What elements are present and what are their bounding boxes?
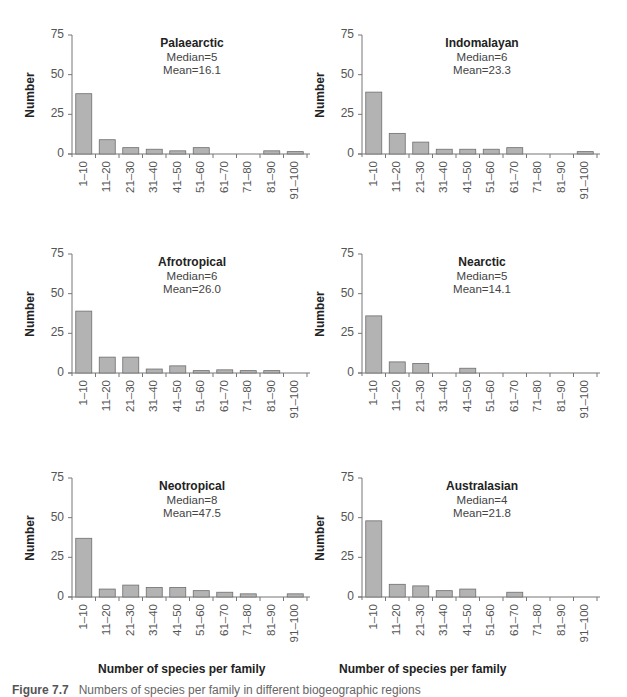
bar	[413, 586, 429, 597]
x-axis-label-right: Number of species per family	[339, 662, 506, 676]
x-tick-label: 91–100	[578, 161, 590, 201]
y-axis-label: Number	[313, 291, 327, 336]
panel-mean: Mean=16.1	[122, 64, 262, 77]
x-tick-label: 81–90	[555, 380, 567, 420]
y-tick-label: 25	[332, 106, 354, 120]
x-tick-label: 21–30	[414, 604, 426, 644]
panel-median: Median=5	[122, 51, 262, 64]
x-tick-label: 1–10	[77, 604, 89, 644]
x-tick-label: 51–60	[194, 161, 206, 201]
y-tick-label: 75	[42, 470, 64, 484]
x-tick-label: 41–50	[171, 604, 183, 644]
x-tick-label: 1–10	[77, 161, 89, 201]
x-tick-label: 11–20	[100, 161, 112, 201]
x-tick-label: 31–40	[147, 380, 159, 420]
x-tick-label: 21–30	[124, 380, 136, 420]
x-tick-label: 61–70	[508, 604, 520, 644]
x-tick-label: 11–20	[100, 380, 112, 420]
x-tick-label: 11–20	[100, 604, 112, 644]
panel-title: Afrotropical	[122, 255, 262, 269]
x-tick-label: 41–50	[461, 380, 473, 420]
bar	[507, 592, 523, 597]
x-tick-label: 51–60	[484, 380, 496, 420]
x-tick-label: 31–40	[147, 604, 159, 644]
x-tick-label: 11–20	[390, 380, 402, 420]
x-tick-label: 41–50	[171, 161, 183, 201]
x-tick-label: 91–100	[288, 161, 300, 201]
panel-title: Palaearctic	[122, 36, 262, 50]
x-tick-label: 41–50	[461, 161, 473, 201]
x-tick-label: 1–10	[77, 380, 89, 420]
y-tick-label: 50	[42, 286, 64, 300]
x-axis-label-left: Number of species per family	[98, 662, 265, 676]
figure-caption-text: Numbers of species per family in differe…	[79, 683, 421, 697]
y-tick-label: 50	[332, 67, 354, 81]
x-tick-label: 51–60	[194, 380, 206, 420]
y-tick-label: 50	[332, 286, 354, 300]
y-tick-label: 75	[332, 470, 354, 484]
y-tick-label: 75	[42, 246, 64, 260]
panel-median: Median=8	[122, 494, 262, 507]
x-tick-label: 81–90	[265, 604, 277, 644]
panel-mean: Mean=21.8	[412, 507, 552, 520]
x-tick-label: 1–10	[367, 380, 379, 420]
x-tick-label: 71–80	[241, 380, 253, 420]
y-tick-label: 25	[42, 325, 64, 339]
x-tick-label: 71–80	[531, 380, 543, 420]
y-tick-label: 75	[332, 27, 354, 41]
x-tick-label: 21–30	[414, 161, 426, 201]
x-tick-label: 61–70	[508, 380, 520, 420]
x-tick-label: 91–100	[288, 380, 300, 420]
x-tick-label: 71–80	[241, 604, 253, 644]
y-tick-label: 50	[42, 67, 64, 81]
x-tick-label: 91–100	[288, 604, 300, 644]
x-tick-label: 91–100	[578, 380, 590, 420]
x-tick-label: 31–40	[147, 161, 159, 201]
x-tick-label: 81–90	[555, 604, 567, 644]
y-axis-label: Number	[23, 515, 37, 560]
x-tick-label: 71–80	[531, 161, 543, 201]
y-axis-label: Number	[313, 515, 327, 560]
y-tick-label: 25	[42, 106, 64, 120]
x-tick-label: 71–80	[241, 161, 253, 201]
panel-title: Nearctic	[412, 255, 552, 269]
x-tick-label: 61–70	[508, 161, 520, 201]
bar	[460, 589, 476, 597]
x-tick-label: 21–30	[414, 380, 426, 420]
panel-title: Neotropical	[122, 479, 262, 493]
y-tick-label: 25	[332, 549, 354, 563]
y-tick-label: 50	[42, 510, 64, 524]
x-tick-label: 11–20	[390, 161, 402, 201]
panel-mean: Mean=47.5	[122, 507, 262, 520]
x-tick-label: 31–40	[437, 604, 449, 644]
y-tick-label: 0	[42, 589, 64, 603]
y-tick-label: 0	[332, 365, 354, 379]
x-tick-label: 61–70	[218, 161, 230, 201]
x-tick-label: 21–30	[124, 161, 136, 201]
y-axis-label: Number	[23, 291, 37, 336]
panel-median: Median=6	[412, 51, 552, 64]
y-tick-label: 0	[332, 146, 354, 160]
x-tick-label: 51–60	[484, 161, 496, 201]
x-tick-label: 61–70	[218, 380, 230, 420]
x-tick-label: 31–40	[437, 161, 449, 201]
x-tick-label: 61–70	[218, 604, 230, 644]
figure-caption: Figure 7.7 Numbers of species per family…	[12, 683, 421, 697]
x-tick-label: 91–100	[578, 604, 590, 644]
x-tick-label: 81–90	[265, 380, 277, 420]
x-tick-label: 51–60	[194, 604, 206, 644]
y-tick-label: 75	[332, 246, 354, 260]
panel-median: Median=4	[412, 494, 552, 507]
x-tick-label: 1–10	[367, 604, 379, 644]
y-tick-label: 75	[42, 27, 64, 41]
x-tick-label: 71–80	[531, 604, 543, 644]
y-tick-label: 0	[332, 589, 354, 603]
y-tick-label: 0	[42, 146, 64, 160]
panel-title: Australasian	[412, 479, 552, 493]
bar	[366, 521, 382, 597]
bar	[436, 591, 452, 597]
y-tick-label: 25	[332, 325, 354, 339]
bar	[389, 584, 405, 597]
x-tick-label: 81–90	[265, 161, 277, 201]
y-tick-label: 50	[332, 510, 354, 524]
